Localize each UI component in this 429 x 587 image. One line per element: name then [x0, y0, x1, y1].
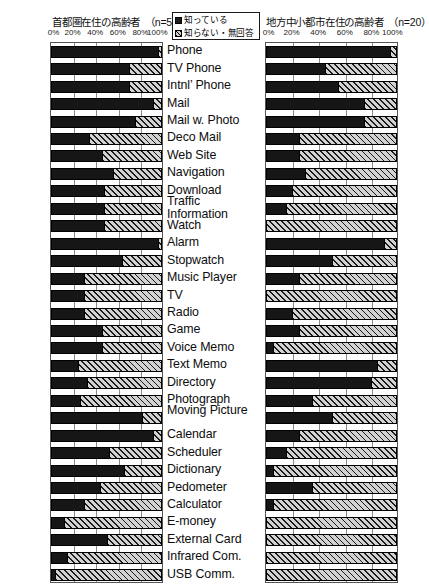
bar-segment-unknown [364, 116, 397, 128]
bar-segment-known [51, 168, 113, 180]
axis-tick-100: 100% [382, 28, 402, 37]
category-label: Text Memo [167, 358, 227, 371]
category-label: Calculator [167, 498, 222, 511]
bar-segment-known [266, 377, 371, 389]
bar-segment-known [266, 133, 299, 145]
bar-segment-known [51, 185, 104, 197]
bar-segment-known [51, 517, 64, 529]
bar-row [266, 46, 397, 58]
category-label: Alarm [167, 236, 199, 249]
category-label: Game [167, 323, 200, 336]
bar-segment-known [266, 63, 325, 75]
bar-segment-known [51, 552, 67, 564]
bar-row [266, 220, 397, 232]
bar-segment-unknown [266, 290, 397, 302]
bar-segment-known [266, 395, 312, 407]
left-panel-title: 首都圏在住の高齢者 （n=50） [52, 14, 187, 29]
bar-row [266, 377, 397, 389]
bar-segment-unknown [109, 447, 162, 459]
bar-segment-known [266, 412, 332, 424]
right-chart-plot [265, 42, 398, 583]
bar-row [266, 168, 397, 180]
bar-row [51, 81, 162, 93]
category-label: Dictionary [167, 463, 221, 476]
bar-row [266, 534, 397, 546]
category-label: Scheduler [167, 446, 222, 459]
filled-square-icon [175, 17, 182, 24]
bar-segment-known [51, 342, 102, 354]
bar-segment-unknown [266, 552, 397, 564]
category-label: TV [167, 289, 183, 302]
bar-row [266, 325, 397, 337]
bar-row [266, 63, 397, 75]
bar-segment-unknown [84, 499, 162, 511]
bar-row [51, 412, 162, 424]
right-bar-rows [266, 43, 397, 582]
bar-segment-known [266, 46, 390, 58]
bar-segment-unknown [286, 203, 397, 215]
bar-segment-known [266, 116, 364, 128]
axis-tick-40: 40% [310, 28, 326, 37]
category-label: Watch [167, 219, 201, 232]
bar-row [51, 203, 162, 215]
bar-segment-unknown [332, 412, 398, 424]
axis-tick-0: 0% [263, 28, 275, 37]
bar-segment-unknown [312, 482, 397, 494]
right-x-axis: 0%20%40%60%80%100% [265, 28, 398, 40]
category-label: Stopwatch [167, 254, 224, 267]
bar-segment-known [51, 273, 84, 285]
bar-segment-known [51, 220, 104, 232]
bar-segment-known [266, 185, 292, 197]
bar-segment-known [51, 534, 107, 546]
bar-row [51, 360, 162, 372]
axis-tick-40: 40% [87, 28, 103, 37]
left-x-axis: 0%20%40%60%80%100% [50, 28, 163, 40]
bar-segment-unknown [84, 273, 162, 285]
bar-row [266, 133, 397, 145]
left-chart-plot [50, 42, 163, 583]
bar-row [51, 273, 162, 285]
bar-segment-unknown [113, 168, 162, 180]
bar-row [51, 569, 162, 581]
bar-segment-unknown [55, 569, 162, 581]
bar-row [266, 116, 397, 128]
bar-row [266, 465, 397, 477]
bar-segment-known [51, 499, 84, 511]
bar-row [266, 430, 397, 442]
bar-segment-unknown [158, 238, 162, 250]
bar-segment-unknown [266, 517, 397, 529]
bar-segment-known [51, 482, 100, 494]
bar-row [51, 499, 162, 511]
bar-segment-unknown [305, 168, 397, 180]
bar-segment-known [266, 203, 286, 215]
bar-segment-known [51, 325, 102, 337]
bar-row [51, 63, 162, 75]
category-label: Calendar [167, 428, 216, 441]
bar-segment-unknown [273, 465, 397, 477]
category-label: Voice Memo [167, 341, 234, 354]
bar-segment-known [266, 447, 286, 459]
bar-row [51, 255, 162, 267]
bar-segment-unknown [102, 325, 162, 337]
bar-segment-unknown [104, 185, 162, 197]
bar-segment-known [51, 238, 158, 250]
bar-segment-known [266, 150, 299, 162]
bar-segment-unknown [107, 534, 163, 546]
category-label: Mail w. Photo [167, 114, 239, 127]
bar-segment-unknown [84, 308, 162, 320]
category-label: Navigation [167, 166, 225, 179]
category-label: Moving Picture [167, 404, 261, 417]
bar-segment-known [51, 430, 153, 442]
chart-legend: 知っている 知らない・無回答 [172, 12, 260, 40]
bar-row [51, 465, 162, 477]
bar-segment-known [51, 447, 109, 459]
bar-row [266, 569, 397, 581]
bar-row [51, 552, 162, 564]
bar-row [266, 185, 397, 197]
bar-row [266, 482, 397, 494]
bar-segment-unknown [266, 220, 397, 232]
bar-row [266, 447, 397, 459]
bar-segment-unknown [292, 308, 397, 320]
bar-segment-unknown [377, 360, 397, 372]
